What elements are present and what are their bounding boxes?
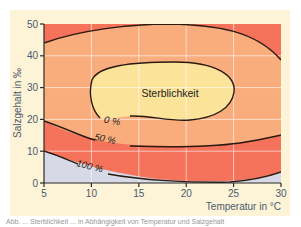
figure-caption: Abb. ... Sterblichkeit ... in Abhängigke… xyxy=(6,218,224,225)
y-tick-labels: 0 10 20 30 40 50 xyxy=(27,19,39,189)
svg-text:5: 5 xyxy=(41,188,47,199)
svg-text:10: 10 xyxy=(86,188,98,199)
x-tick-labels: 5 10 15 20 25 30 xyxy=(41,188,287,199)
svg-text:30: 30 xyxy=(275,188,287,199)
region-label: Sterblichkeit xyxy=(141,87,198,99)
svg-text:0: 0 xyxy=(32,178,38,189)
contour-chart: 0 10 20 30 40 50 5 10 15 20 25 30 Temper… xyxy=(0,0,301,227)
svg-text:30: 30 xyxy=(27,82,39,93)
svg-text:20: 20 xyxy=(27,114,39,125)
svg-text:25: 25 xyxy=(228,188,240,199)
svg-text:20: 20 xyxy=(181,188,193,199)
svg-text:15: 15 xyxy=(133,188,145,199)
svg-text:40: 40 xyxy=(27,50,39,61)
svg-text:50: 50 xyxy=(27,19,39,30)
x-axis-label: Temperatur in °C xyxy=(206,201,281,212)
svg-text:10: 10 xyxy=(27,146,39,157)
y-axis-label: Salzgehalt in ‰ xyxy=(12,68,23,138)
